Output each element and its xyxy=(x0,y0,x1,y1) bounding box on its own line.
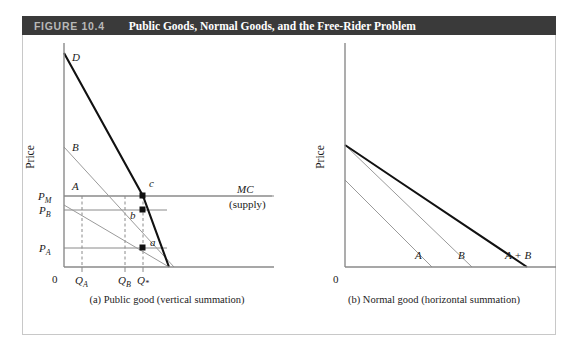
y-axis-title-b: Price xyxy=(314,145,326,169)
panel-a-caption: (a) Public good (vertical summation) xyxy=(22,294,312,305)
origin-label-a: 0 xyxy=(52,273,58,285)
figure-number-label: FIGURE 10.4 xyxy=(34,20,105,32)
y-axis-title-a: Price xyxy=(24,145,36,169)
curve-b-line xyxy=(64,147,174,267)
curve-b-line-b xyxy=(345,145,472,267)
origin-label-b: 0 xyxy=(333,273,339,285)
point-marker-a xyxy=(140,245,146,251)
price-tick-pa: PA xyxy=(38,242,51,257)
figure-page: FIGURE 10.4 Public Goods, Normal Goods, … xyxy=(0,0,584,353)
quantity-tick-qa: QA xyxy=(75,274,88,289)
curve-demand-line xyxy=(64,53,169,267)
panel-b-caption: (b) Normal good (horizontal summation) xyxy=(312,294,556,305)
curve-label-d: D xyxy=(71,51,80,63)
price-tick-pb: PB xyxy=(38,204,51,219)
panel-normal-good: A B A + B 0 Price Quantity (b) Normal go… xyxy=(312,35,556,319)
figure-title-bar: FIGURE 10.4 Public Goods, Normal Goods, … xyxy=(22,16,556,35)
mc-supply-label: (supply) xyxy=(229,198,266,211)
price-tick-pm: PM xyxy=(37,190,53,205)
chart-public-good: D B A MC (supply) c b a PM PB PA 0 QA QB… xyxy=(22,35,312,295)
curve-sum-line xyxy=(345,145,527,267)
mc-label: MC xyxy=(236,183,254,195)
chart-normal-good: A B A + B 0 Price Quantity xyxy=(312,35,556,295)
curve-label-a: A xyxy=(71,180,79,192)
curve-label-b: B xyxy=(72,141,79,153)
point-label-c: c xyxy=(149,177,154,189)
point-marker-b xyxy=(140,207,146,213)
curve-label-a-b: A xyxy=(414,249,422,261)
curve-label-b-b: B xyxy=(458,249,465,261)
curve-label-sum: A + B xyxy=(504,249,531,261)
quantity-tick-qstar: Q* xyxy=(137,274,149,288)
point-label-a: a xyxy=(150,236,156,248)
panel-public-good: D B A MC (supply) c b a PM PB PA 0 QA QB… xyxy=(22,35,312,319)
point-marker-c xyxy=(140,193,146,199)
point-label-b: b xyxy=(130,209,136,221)
quantity-tick-qb: QB xyxy=(118,274,131,289)
figure-title-label: Public Goods, Normal Goods, and the Free… xyxy=(129,20,416,32)
